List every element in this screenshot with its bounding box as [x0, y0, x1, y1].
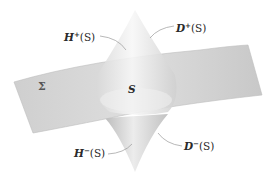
label-h-plus-arg: (S)	[80, 31, 95, 43]
label-sigma: Σ	[38, 80, 46, 93]
label-h-plus-base: H	[64, 31, 74, 43]
label-d-minus-base: D	[184, 140, 193, 152]
label-d-plus: D+(S)	[176, 22, 206, 34]
label-h-plus: H+(S)	[64, 31, 95, 43]
label-h-minus-base: H	[74, 147, 84, 159]
label-h-minus: H−(S)	[74, 147, 105, 159]
lower-cone	[105, 114, 168, 172]
label-s: S	[128, 84, 136, 95]
cone-base	[100, 88, 172, 112]
label-d-plus-base: D	[176, 22, 185, 34]
label-d-plus-arg: (S)	[191, 22, 206, 34]
label-s-text: S	[128, 83, 136, 95]
label-h-minus-arg: (S)	[90, 147, 105, 159]
leader-d-minus	[158, 133, 182, 146]
label-d-minus: D−(S)	[184, 140, 214, 152]
leader-d-plus	[150, 26, 174, 38]
label-d-minus-arg: (S)	[199, 140, 214, 152]
